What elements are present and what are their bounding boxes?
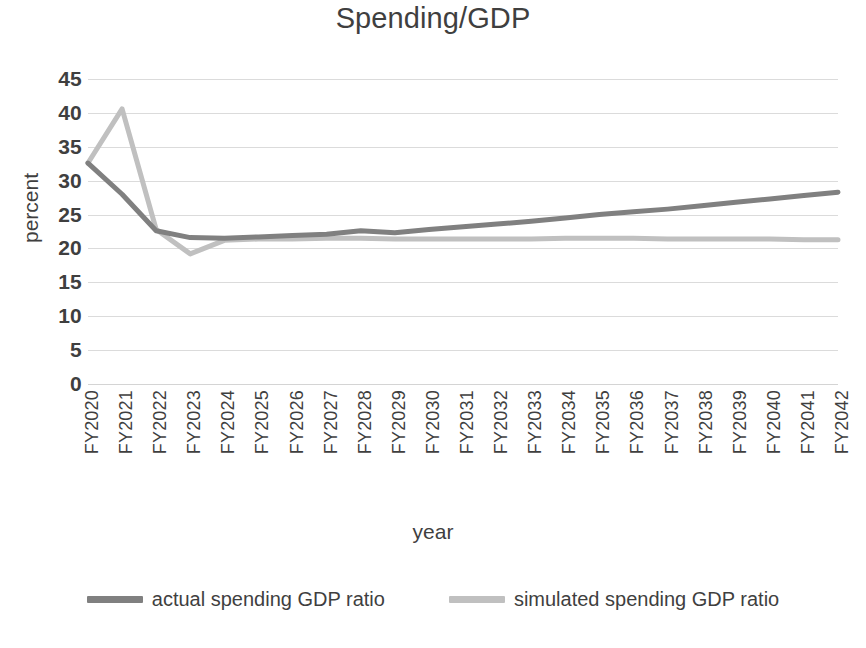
series-line <box>88 163 838 238</box>
legend-item[interactable]: simulated spending GDP ratio <box>449 588 779 611</box>
x-axis-tick-label: FY2036 <box>627 390 648 498</box>
chart-title: Spending/GDP <box>0 2 866 35</box>
y-axis-tick-label: 0 <box>38 372 82 396</box>
x-axis-tick-label: FY2032 <box>491 390 512 498</box>
legend-swatch-icon <box>87 596 143 603</box>
legend-swatch-icon <box>449 596 505 603</box>
x-axis-tick-label: FY2042 <box>832 390 853 498</box>
y-axis-tick-label: 35 <box>38 135 82 159</box>
x-axis-tick-label: FY2026 <box>287 390 308 498</box>
y-axis-tick-label: 10 <box>38 304 82 328</box>
x-axis-tick-label: FY2037 <box>662 390 683 498</box>
series-lines <box>88 79 838 384</box>
x-axis-tick-label: FY2033 <box>525 390 546 498</box>
y-axis-tick-label: 25 <box>38 203 82 227</box>
x-axis-tick-label: FY2038 <box>696 390 717 498</box>
legend-item[interactable]: actual spending GDP ratio <box>87 588 385 611</box>
y-axis-tick-labels: 454035302520151050 <box>26 79 82 384</box>
gridline <box>88 384 838 385</box>
plot-area <box>88 79 838 384</box>
y-axis-tick-label: 40 <box>38 101 82 125</box>
x-axis-tick-label: FY2031 <box>457 390 478 498</box>
y-axis-tick-label: 30 <box>38 169 82 193</box>
x-axis-tick-label: FY2029 <box>389 390 410 498</box>
x-axis-tick-label: FY2022 <box>150 390 171 498</box>
x-axis-tick-label: FY2039 <box>730 390 751 498</box>
x-axis-tick-label: FY2040 <box>764 390 785 498</box>
x-axis-tick-label: FY2023 <box>184 390 205 498</box>
legend-label: simulated spending GDP ratio <box>514 588 779 611</box>
series-line <box>88 109 838 254</box>
x-axis-tick-label: FY2021 <box>116 390 137 498</box>
x-axis-tick-label: FY2020 <box>82 390 103 498</box>
x-axis-tick-labels: FY2020FY2021FY2022FY2023FY2024FY2025FY20… <box>88 390 838 498</box>
chart-legend: actual spending GDP ratiosimulated spend… <box>0 588 866 611</box>
x-axis-tick-label: FY2041 <box>798 390 819 498</box>
y-axis-tick-label: 5 <box>38 338 82 362</box>
x-axis-tick-label: FY2028 <box>355 390 376 498</box>
y-axis-tick-label: 20 <box>38 236 82 260</box>
chart-figure: Spending/GDP percent 454035302520151050 … <box>0 0 866 648</box>
x-axis-tick-label: FY2030 <box>423 390 444 498</box>
x-axis-tick-label: FY2025 <box>252 390 273 498</box>
x-axis-title: year <box>0 520 866 544</box>
x-axis-tick-label: FY2034 <box>559 390 580 498</box>
x-axis-tick-label: FY2027 <box>321 390 342 498</box>
legend-label: actual spending GDP ratio <box>152 588 385 611</box>
y-axis-tick-label: 15 <box>38 270 82 294</box>
x-axis-tick-label: FY2035 <box>593 390 614 498</box>
x-axis-tick-label: FY2024 <box>218 390 239 498</box>
y-axis-tick-label: 45 <box>38 67 82 91</box>
